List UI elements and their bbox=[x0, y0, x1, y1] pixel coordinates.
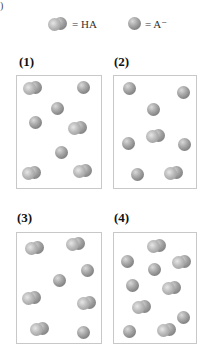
a-minus-ion-icon bbox=[77, 81, 90, 94]
panel-label-2: (2) bbox=[114, 55, 129, 69]
a-minus-ion-icon bbox=[122, 137, 135, 150]
ha-molecule-icon bbox=[48, 17, 68, 31]
ha-molecule-icon bbox=[132, 300, 152, 314]
a-minus-ion-icon bbox=[51, 102, 64, 115]
a-minus-ion-icon bbox=[177, 86, 190, 99]
panel-label-4: (4) bbox=[114, 211, 129, 225]
ha-molecule-icon bbox=[22, 166, 42, 180]
a-minus-ion-icon bbox=[147, 103, 160, 116]
ha-molecule-icon bbox=[157, 323, 177, 337]
a-minus-ion-icon bbox=[77, 326, 90, 339]
ha-molecule-icon bbox=[30, 322, 50, 336]
ha-molecule-icon bbox=[162, 281, 182, 295]
a-minus-ion-icon bbox=[128, 17, 141, 30]
legend-a-minus-label: = A⁻ bbox=[145, 18, 167, 30]
a-minus-ion-icon bbox=[123, 82, 136, 95]
legend-ha-label: = HA bbox=[72, 18, 97, 30]
a-minus-ion-icon bbox=[177, 311, 190, 324]
legend: = HA = A⁻ bbox=[0, 0, 214, 35]
panel-label-3: (3) bbox=[17, 211, 32, 225]
ha-molecule-icon bbox=[147, 239, 167, 253]
ha-molecule-icon bbox=[23, 81, 43, 95]
a-minus-ion-icon bbox=[126, 279, 139, 292]
ha-molecule-icon bbox=[146, 129, 166, 143]
a-minus-ion-icon bbox=[178, 138, 191, 151]
ha-molecule-icon bbox=[164, 166, 184, 180]
a-minus-ion-icon bbox=[131, 168, 144, 181]
ha-molecule-icon bbox=[77, 296, 97, 310]
ha-molecule-icon bbox=[66, 237, 86, 251]
ha-molecule-icon bbox=[73, 164, 93, 178]
a-minus-ion-icon bbox=[121, 255, 134, 268]
a-minus-ion-icon bbox=[55, 146, 68, 159]
a-minus-ion-icon bbox=[29, 116, 42, 129]
ha-molecule-icon bbox=[22, 291, 42, 305]
panel-label-1: (1) bbox=[19, 55, 34, 69]
ha-molecule-icon bbox=[25, 241, 45, 255]
a-minus-ion-icon bbox=[148, 263, 161, 276]
a-minus-ion-icon bbox=[53, 274, 66, 287]
ha-molecule-icon bbox=[68, 121, 88, 135]
a-minus-ion-icon bbox=[81, 264, 94, 277]
a-minus-ion-icon bbox=[123, 325, 136, 338]
ha-molecule-icon bbox=[172, 255, 192, 269]
